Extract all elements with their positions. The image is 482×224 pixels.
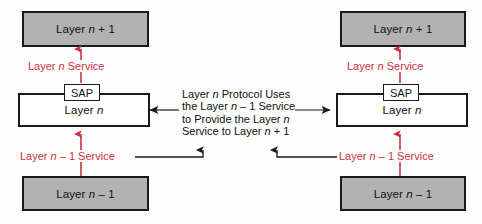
note-line-2: the Layer n – 1 Service [182, 100, 295, 112]
right-layer-n-plus-1-label: Layer n + 1 [374, 23, 433, 35]
left-layer-n-service-label: Layer n Service [26, 60, 106, 72]
left-layer-n-minus-1-box: Layer n – 1 [22, 176, 149, 211]
left-layer-n-minus-1-label: Layer n – 1 [56, 188, 115, 200]
protocol-explanation-note: Layer n Protocol Uses the Layer n – 1 Se… [182, 88, 295, 138]
left-layer-n-minus-1-service-label: Layer n – 1 Service [18, 150, 117, 162]
note-line-4: Service to Layer n + 1 [182, 125, 295, 137]
right-layer-n-service-label: Layer n Service [345, 60, 425, 72]
note-line-1: Layer n Protocol Uses [182, 88, 295, 100]
right-layer-n-label: Layer n [382, 104, 421, 116]
left-protocol-leader [135, 150, 203, 157]
right-layer-n-plus-1-box: Layer n + 1 [340, 11, 466, 47]
left-layer-n-plus-1-box: Layer n + 1 [22, 11, 149, 47]
right-sap-box: SAP [383, 84, 419, 101]
note-line-3: to Provide the Layer n [182, 113, 295, 125]
left-sap-box: SAP [64, 84, 100, 101]
protocol-layering-diagram: Layer n + 1 Layer n Service Layer n SAP … [0, 0, 482, 224]
right-layer-n-minus-1-box: Layer n – 1 [340, 176, 466, 211]
left-sap-label: SAP [71, 87, 93, 99]
left-layer-n-label: Layer n [64, 104, 103, 116]
right-layer-n-minus-1-label: Layer n – 1 [374, 188, 433, 200]
right-layer-n-minus-1-service-label: Layer n – 1 Service [337, 150, 436, 162]
left-layer-n-plus-1-label: Layer n + 1 [56, 23, 115, 35]
right-sap-label: SAP [390, 87, 412, 99]
